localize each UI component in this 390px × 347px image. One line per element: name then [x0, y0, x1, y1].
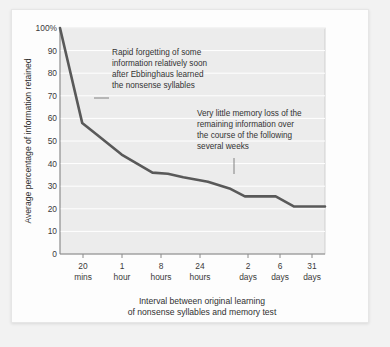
x-tick-value-0: 20: [78, 261, 88, 271]
x-tick-unit-1: hour: [114, 272, 131, 282]
y-tick-6: 40: [48, 159, 58, 169]
x-tick-value-2: 8: [159, 261, 164, 271]
x-tick-value-6: 31: [307, 261, 317, 271]
annotation-1-line-0: Rapid forgetting of some: [112, 48, 202, 57]
y-tick-0: 100%: [36, 23, 58, 33]
y-tick-10: 0: [52, 249, 57, 259]
x-tick-unit-2: hours: [151, 272, 172, 282]
forgetting-curve-chart: 100% 90 80 70 60 50 40 30 20 10 0 Averag…: [12, 10, 370, 324]
annotation-1-line-2: after Ebbinghaus learned: [112, 70, 204, 79]
y-tick-3: 70: [48, 91, 58, 101]
x-tick-value-4: 2: [246, 261, 251, 271]
y-tick-8: 20: [48, 204, 58, 214]
x-tick-marks: [83, 254, 312, 258]
caption-line-0: Interval between original learning: [139, 296, 265, 306]
y-tick-5: 50: [48, 136, 58, 146]
x-tick-value-5: 6: [278, 261, 283, 271]
x-tick-unit-6: days: [303, 272, 321, 282]
x-tick-labels-unit: mins hour hours hours days days days: [74, 272, 321, 282]
y-tick-2: 80: [48, 68, 58, 78]
annotation-1-line-1: information relatively soon: [112, 59, 208, 68]
x-axis-caption: Interval between original learning of no…: [128, 296, 277, 317]
x-tick-unit-5: days: [271, 272, 289, 282]
x-tick-unit-4: days: [239, 272, 257, 282]
x-tick-value-1: 1: [120, 261, 125, 271]
y-tick-7: 30: [48, 181, 58, 191]
annotation-2-line-0: Very little memory loss of the: [197, 109, 302, 118]
x-tick-labels-value: 20 1 8 24 2 6 31: [78, 261, 317, 271]
annotation-2-line-1: remaining information over: [197, 120, 294, 129]
y-tick-labels: 100% 90 80 70 60 50 40 30 20 10 0: [36, 23, 58, 259]
x-tick-value-3: 24: [195, 261, 205, 271]
x-tick-unit-3: hours: [190, 272, 211, 282]
y-tick-9: 10: [48, 226, 58, 236]
y-tick-1: 90: [48, 46, 58, 56]
x-tick-unit-0: mins: [74, 272, 92, 282]
chart-card: 100% 90 80 70 60 50 40 30 20 10 0 Averag…: [11, 9, 369, 323]
annotation-1-line-3: the nonsense syllables: [112, 81, 195, 90]
caption-line-1: of nonsense syllables and memory test: [128, 307, 277, 317]
y-tick-4: 60: [48, 113, 58, 123]
annotation-2-line-2: the course of the following: [197, 131, 293, 140]
chart-svg: 100% 90 80 70 60 50 40 30 20 10 0 Averag…: [12, 10, 370, 324]
annotation-2-line-3: several weeks: [197, 142, 249, 151]
y-axis-title: Average percentage of information retain…: [23, 58, 33, 223]
